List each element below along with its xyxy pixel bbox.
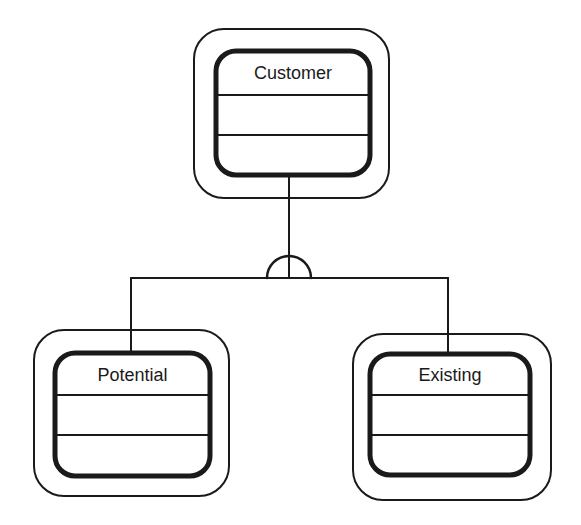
entity-existing[interactable] [353, 334, 551, 500]
entity-potential[interactable] [34, 330, 229, 496]
potential-entity-name: Potential [55, 364, 210, 386]
customer-entity-name: Customer [216, 62, 370, 84]
diagram-canvas: Customer Potential Existing [0, 0, 581, 525]
generalization-connector [131, 176, 448, 354]
entity-customer[interactable] [194, 29, 389, 198]
existing-entity-name: Existing [370, 364, 530, 386]
